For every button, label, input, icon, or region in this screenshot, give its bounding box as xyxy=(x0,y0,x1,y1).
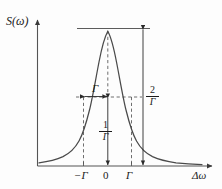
half-height-denominator: Γ xyxy=(99,132,112,143)
peak-height-denominator: Γ xyxy=(146,97,159,108)
x-tick-label-pos-gamma: Γ xyxy=(126,170,132,181)
plot-canvas xyxy=(0,0,222,189)
x-tick-label-zero: 0 xyxy=(103,170,109,181)
x-tick-label-neg-gamma: −Γ xyxy=(74,170,88,181)
half-height-fraction-label: 1 Γ xyxy=(99,120,112,142)
x-axis-label: Δω xyxy=(192,170,206,181)
half-height-numerator: 1 xyxy=(99,120,112,131)
peak-height-fraction-label: 2 Γ xyxy=(146,85,159,107)
half-width-label: Γ xyxy=(92,83,98,94)
lorentzian-curve xyxy=(39,31,202,164)
lorentzian-lineshape-figure: S(ω) Δω −Γ 0 Γ Γ 1 Γ 2 Γ xyxy=(0,0,222,189)
y-axis-label: S(ω) xyxy=(6,15,28,27)
peak-height-numerator: 2 xyxy=(146,85,159,96)
